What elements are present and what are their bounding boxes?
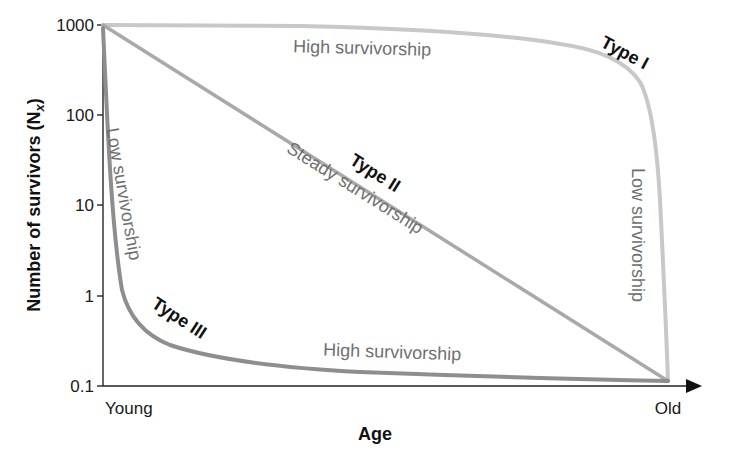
y-tick-1000: 1000 [56, 16, 94, 35]
type-1-low-survivorship-label: Low survivorship [628, 168, 648, 302]
y-tick-0-1: 0.1 [70, 377, 94, 396]
y-axis-title: Number of survivors (Nx) [24, 98, 47, 311]
y-tick-10: 10 [75, 196, 94, 215]
y-tick-1: 1 [85, 287, 94, 306]
type-1-high-survivorship-label: High survivorship [293, 36, 432, 60]
survivorship-curve-chart: 1000 100 10 1 0.1 Number of survivors (N… [0, 0, 730, 467]
type-3-label: Type III [148, 293, 210, 343]
type-3-high-survivorship-label: High survivorship [323, 340, 462, 365]
y-ticks [97, 25, 103, 386]
x-axis-title: Age [358, 424, 392, 444]
x-tick-old: Old [655, 399, 681, 418]
x-tick-young: Young [105, 399, 153, 418]
y-tick-100: 100 [66, 106, 94, 125]
x-axis-arrow-icon [686, 379, 702, 393]
type-3-low-survivorship-label: Low survivorship [102, 126, 145, 261]
